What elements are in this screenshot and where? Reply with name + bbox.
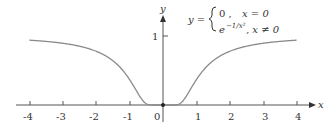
svg-text:-3: -3 xyxy=(56,111,66,122)
origin-point xyxy=(161,103,165,107)
case1-condition: x = 0 xyxy=(242,8,269,19)
chart: x y 1 -4 -3 -2 -1 0 1 2 3 4 y = 0 , x = … xyxy=(0,0,331,127)
svg-text:-4: -4 xyxy=(23,111,33,122)
case2-exponent: −1/x² xyxy=(226,22,246,30)
y-tick-label: 1 xyxy=(152,31,158,42)
x-axis-arrow-icon xyxy=(309,102,316,108)
svg-text:-2: -2 xyxy=(89,111,99,122)
svg-text:-1: -1 xyxy=(123,111,133,122)
formula-lhs: y = xyxy=(187,14,205,25)
case2-condition: , x ≠ 0 xyxy=(246,24,280,35)
y-axis-arrow-icon xyxy=(160,15,166,22)
svg-text:3: 3 xyxy=(262,111,268,122)
x-axis-label: x xyxy=(318,99,324,110)
y-axis-label: y xyxy=(159,3,166,14)
svg-text:2: 2 xyxy=(228,111,234,122)
svg-text:0: 0 xyxy=(154,111,160,122)
formula-annotation: y = 0 , x = 0 e −1/x² , x ≠ 0 xyxy=(187,7,280,35)
svg-text:4: 4 xyxy=(295,111,301,122)
case1-value: 0 , xyxy=(219,8,232,19)
brace-icon xyxy=(209,7,216,31)
svg-text:1: 1 xyxy=(195,111,201,122)
x-tick-labels: -4 -3 -2 -1 0 1 2 3 4 xyxy=(23,111,301,122)
case2-base: e xyxy=(219,24,225,35)
